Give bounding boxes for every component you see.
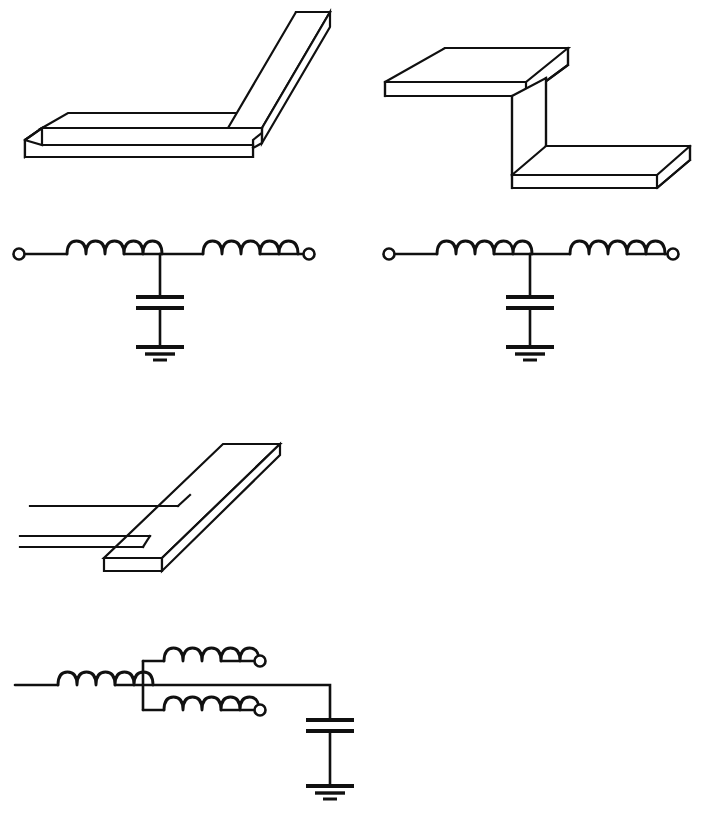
microstrip-step-figure <box>360 20 711 210</box>
tee-diagonal-front-face <box>104 558 162 571</box>
input-series-inductor <box>58 672 153 685</box>
tee-equivalent-circuit <box>0 630 400 818</box>
branch-inductor-upper <box>164 648 259 661</box>
port-2-terminal[interactable] <box>304 249 315 260</box>
bend-horizontal-body <box>25 128 268 157</box>
port-1-terminal[interactable] <box>14 249 25 260</box>
port-1-terminal[interactable] <box>384 249 395 260</box>
step-equivalent-circuit <box>370 228 711 378</box>
figure-sheet <box>0 0 711 818</box>
port-upper-terminal[interactable] <box>255 656 266 667</box>
series-inductor-right <box>203 241 298 254</box>
microstrip-bend-figure <box>0 0 355 215</box>
series-inductor-right <box>570 241 665 254</box>
port-2-terminal[interactable] <box>668 249 679 260</box>
port-lower-terminal[interactable] <box>255 705 266 716</box>
series-inductor-left <box>67 241 162 254</box>
shunt-run-wire <box>143 685 330 719</box>
series-inductor-left <box>437 241 532 254</box>
branch-inductor-lower <box>164 697 259 710</box>
microstrip-tee-figure <box>0 425 330 590</box>
bend-equivalent-circuit <box>0 228 355 378</box>
